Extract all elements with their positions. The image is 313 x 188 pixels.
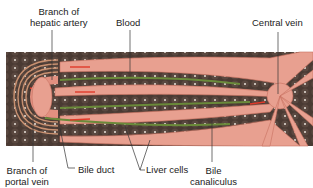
label-liver-cells: Liver cells — [146, 164, 188, 175]
label-hepatic-artery: Branch of hepatic artery — [30, 6, 88, 28]
label-bile-canaliculus: Bile canaliculus — [190, 165, 237, 187]
label-central-vein: Central vein — [252, 17, 303, 28]
label-blood: Blood — [116, 17, 140, 28]
label-bile-duct: Bile duct — [78, 164, 114, 175]
label-portal-vein: Branch of portal vein — [5, 165, 49, 187]
liver-lobule-illustration — [0, 0, 313, 188]
